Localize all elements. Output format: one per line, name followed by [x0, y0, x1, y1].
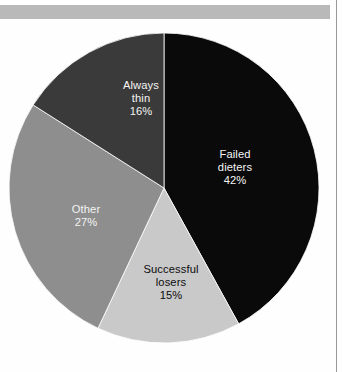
page-canvas: Failed dieters 42% Successful losers 15%… — [0, 0, 343, 372]
pie-chart-svg — [0, 0, 343, 372]
pie-chart: Failed dieters 42% Successful losers 15%… — [0, 0, 343, 372]
pie-slice-group — [9, 33, 319, 343]
